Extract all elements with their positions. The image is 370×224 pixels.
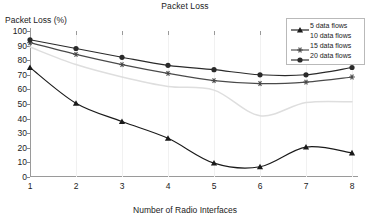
y-tick-label: 90 — [1, 41, 27, 50]
y-tick-label: 50 — [1, 100, 27, 109]
data-point-asterisk — [165, 71, 171, 76]
x-tick-label: 6 — [258, 182, 263, 191]
data-point-circle — [27, 37, 32, 42]
x-tick-label: 5 — [212, 182, 217, 191]
y-tick-label: 10 — [1, 158, 27, 167]
legend-label: 10 data flows — [310, 31, 351, 41]
data-point-circle — [257, 72, 262, 77]
legend-marker-asterisk-icon — [290, 41, 310, 51]
chart-figure: Packet Loss Packet Loss (%) Number of Ra… — [0, 0, 370, 224]
data-point-triangle — [165, 135, 171, 141]
data-point-circle — [73, 46, 78, 51]
data-point-circle — [297, 57, 302, 62]
x-tick-label: 7 — [304, 182, 309, 191]
legend-item-4[interactable]: 20 data flows — [290, 51, 361, 61]
data-point-asterisk — [303, 80, 309, 85]
y-tick-label: 30 — [1, 129, 27, 138]
legend-marker-triangle-icon — [290, 21, 310, 31]
y-tick-mark — [27, 177, 30, 178]
x-axis-label: Number of Radio Interfaces — [0, 205, 370, 215]
legend-marker-circle-icon — [290, 51, 310, 61]
data-point-circle — [165, 63, 170, 68]
y-tick-label: 100 — [1, 27, 27, 36]
x-tick-label: 4 — [166, 182, 171, 191]
legend-label: 15 data flows — [310, 41, 351, 51]
x-tick-label: 3 — [120, 182, 125, 191]
data-point-asterisk — [119, 62, 125, 67]
legend-item-3[interactable]: 15 data flows — [290, 41, 361, 51]
data-point-asterisk — [257, 81, 263, 86]
y-tick-label: 40 — [1, 114, 27, 123]
y-tick-label: 60 — [1, 85, 27, 94]
data-point-asterisk — [73, 52, 79, 57]
legend: 5 data flows10 data flows15 data flows20… — [286, 18, 365, 65]
series-1 — [27, 64, 355, 169]
chart-title: Packet Loss — [0, 1, 370, 11]
legend-label: 20 data flows — [310, 51, 351, 61]
data-point-triangle — [27, 64, 33, 70]
x-tick-label: 2 — [74, 182, 79, 191]
data-point-circle — [303, 72, 308, 77]
data-point-circle — [119, 55, 124, 60]
legend-item-1[interactable]: 5 data flows — [290, 21, 361, 31]
data-point-triangle — [73, 100, 79, 106]
y-axis-label: Packet Loss (%) — [5, 15, 67, 25]
legend-marker-none-icon — [290, 31, 310, 41]
y-tick-label: 20 — [1, 144, 27, 153]
y-tick-label: 0 — [1, 173, 27, 182]
data-point-circle — [211, 67, 216, 72]
x-tick-label: 1 — [28, 182, 33, 191]
x-tick-label: 8 — [350, 182, 355, 191]
data-point-circle — [349, 65, 354, 70]
y-tick-label: 80 — [1, 56, 27, 65]
legend-item-2[interactable]: 10 data flows — [290, 31, 361, 41]
y-tick-label: 70 — [1, 71, 27, 80]
legend-label: 5 data flows — [310, 21, 347, 31]
data-point-asterisk — [211, 78, 217, 83]
